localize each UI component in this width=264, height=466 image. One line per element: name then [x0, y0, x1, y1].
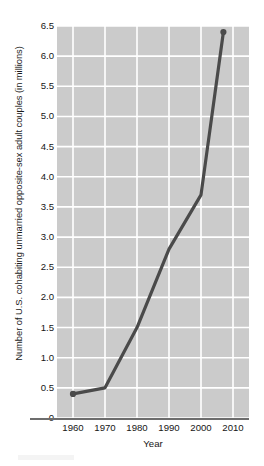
- y-axis-tick-labels: 00.51.01.52.02.53.03.54.04.55.05.56.06.5: [26, 26, 54, 418]
- y-axis-tick-label: 4.5: [26, 142, 54, 152]
- x-axis-tick-labels: 196019701980199020002010: [57, 422, 249, 438]
- y-axis-tick-label: 5.0: [26, 111, 54, 121]
- y-axis-tick-label: 6.5: [26, 21, 54, 31]
- y-axis-tick-label: 1.0: [26, 353, 54, 363]
- y-axis-tick-label: 6.0: [26, 51, 54, 61]
- data-point-markers: [70, 29, 227, 397]
- data-point-marker: [70, 391, 76, 397]
- chart-svg: [57, 26, 249, 418]
- y-axis-tick-label: 3.0: [26, 232, 54, 242]
- horizontal-gridlines: [57, 26, 249, 418]
- figure-container: Number of U.S. cohabiting unmarried oppo…: [0, 0, 264, 466]
- scan-artifact: [18, 455, 74, 460]
- plot-area: [57, 26, 249, 418]
- vertical-gridlines: [73, 26, 233, 418]
- y-axis-tick-label: 2.0: [26, 292, 54, 302]
- x-axis-line: [30, 418, 249, 420]
- y-axis-tick-label: 0.5: [26, 383, 54, 393]
- y-axis-title: Number of U.S. cohabiting unmarried oppo…: [13, 4, 24, 404]
- x-axis-title: Year: [57, 438, 249, 449]
- data-point-marker: [220, 29, 226, 35]
- y-axis-tick-label: 4.0: [26, 172, 54, 182]
- y-axis-tick-label: 5.5: [26, 81, 54, 91]
- x-axis-tick-label: 2010: [211, 422, 255, 433]
- y-axis-tick-label: 1.5: [26, 323, 54, 333]
- y-axis-tick-label: 3.5: [26, 202, 54, 212]
- y-axis-tick-label: 2.5: [26, 262, 54, 272]
